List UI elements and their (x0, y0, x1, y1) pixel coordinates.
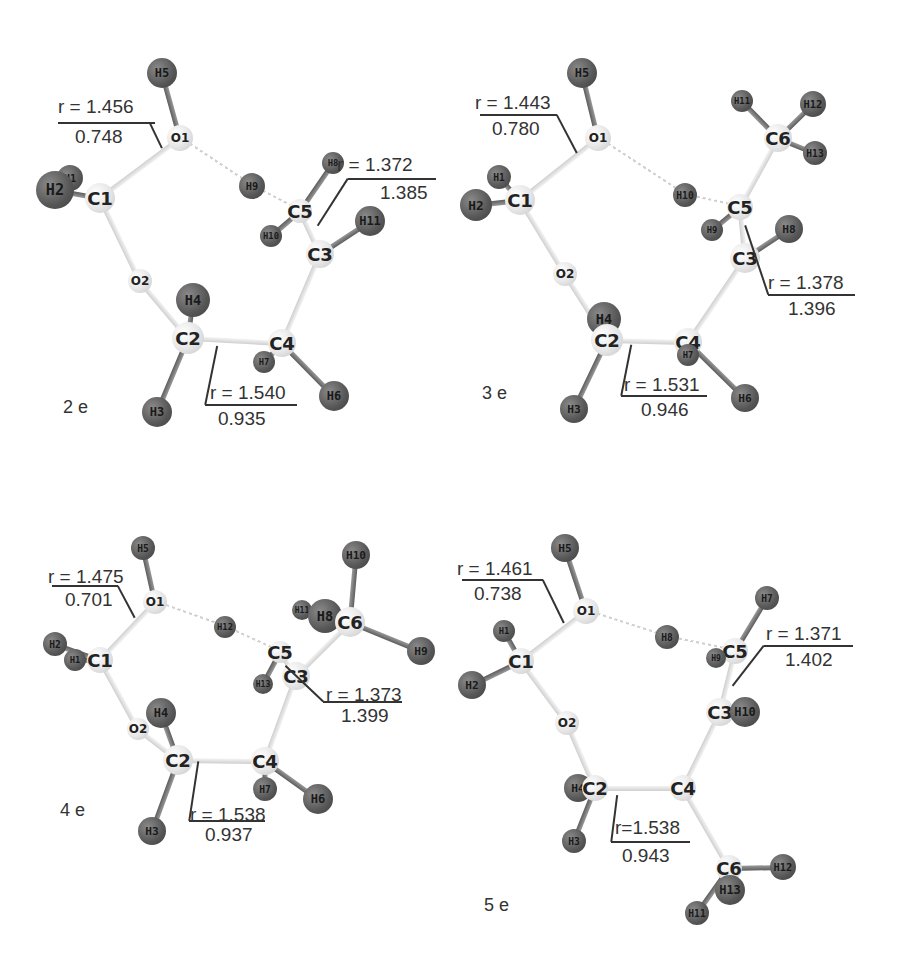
atom-c2: C2 (163, 745, 193, 775)
atom-h11: H11 (685, 901, 709, 925)
electron-state-label: 2 e (63, 397, 88, 418)
atom-h9: H9 (239, 173, 265, 199)
atom-h13: H13 (715, 875, 745, 905)
atom-label: C5 (727, 197, 753, 218)
atom-h9: H9 (407, 637, 435, 665)
atom-h10: H10 (673, 183, 697, 207)
atom-h12: H12 (770, 854, 796, 880)
atom-h12: H12 (800, 91, 826, 117)
bond-annotation: r = 1.443 (475, 93, 551, 112)
annotation-rule (480, 114, 557, 116)
bond-length-label: r = 1.371 (766, 624, 842, 643)
annotation-rule (768, 294, 855, 296)
bond-length-label: r = 1.475 (48, 567, 124, 586)
atom-label: H7 (259, 784, 271, 795)
annotation-rule (764, 645, 853, 647)
atom-label: H6 (327, 389, 341, 403)
figure-canvas: H5O1H1H2C1H9H8C5H10C3H11O2H4C2C4H7H3H6r … (0, 0, 898, 965)
electron-state-label: 4 e (60, 800, 85, 821)
atom-h7: H7 (253, 777, 277, 801)
atom-label: H4 (154, 706, 168, 720)
atom-h3: H3 (138, 817, 166, 845)
atom-h10: H10 (730, 697, 760, 727)
atom-c5: C5 (722, 638, 748, 664)
atom-label: H7 (259, 357, 270, 367)
atom-label: C1 (508, 651, 534, 672)
atom-c1: C1 (505, 185, 535, 215)
atom-h4: H4 (176, 283, 210, 317)
atom-label: O2 (558, 716, 577, 730)
atom-h7: H7 (755, 586, 779, 610)
atom-h9: H9 (701, 219, 723, 241)
atom-c4: C4 (670, 775, 696, 801)
atom-label: H3 (568, 836, 580, 847)
bond-length-label: r = 1.461 (457, 559, 533, 578)
atom-h7: H7 (677, 344, 699, 366)
atom-label: H11 (734, 96, 750, 106)
atom-label: H9 (414, 645, 427, 658)
annotation-rule (323, 701, 402, 703)
atom-c6: C6 (764, 124, 792, 152)
bond-order-value: 0.943 (622, 846, 670, 865)
atom-label: H4 (185, 292, 201, 308)
atom-o2: O2 (553, 262, 577, 286)
atom-c3: C3 (306, 240, 334, 268)
bond-annotation: r = 1.531 (624, 375, 700, 394)
atom-label: H10 (263, 231, 279, 241)
atom-label: C3 (707, 702, 733, 723)
atom-label: C4 (252, 751, 278, 772)
atom-h8: H8 (775, 215, 803, 243)
atom-label: H3 (567, 403, 580, 416)
annotation-rule (462, 579, 543, 581)
atom-c5: C5 (727, 194, 753, 220)
bond-annotation: r = 1.461 (457, 559, 533, 578)
atom-h1: H1 (493, 620, 515, 642)
atom-h9: H9 (706, 648, 726, 668)
bond-order-value: 0.738 (474, 584, 522, 603)
bond-order-value: 1.385 (380, 183, 428, 202)
atom-h12: H12 (214, 616, 236, 638)
atom-label: H12 (217, 622, 233, 632)
atom-h11: H11 (731, 90, 753, 112)
atom-h1: H1 (64, 649, 86, 671)
atom-label: H6 (738, 392, 751, 405)
atom-label: H11 (359, 214, 381, 228)
bond-length-label: r = 1.540 (210, 383, 286, 402)
atom-h11: H11 (355, 206, 385, 236)
atom-label: C6 (765, 128, 791, 149)
bond-length-label: r = 1.456 (58, 97, 134, 116)
atom-label: H12 (804, 98, 823, 110)
atom-label: H2 (46, 181, 64, 199)
atom-label: C5 (287, 201, 313, 222)
atom-o2: O2 (128, 269, 152, 293)
bond-annotation: r = 1.540 (210, 383, 286, 402)
bond-annotation: r = 1.456 (58, 97, 134, 116)
atom-c4: C4 (268, 329, 296, 357)
bond-length-label: r = 1.378 (768, 273, 844, 292)
annotation-leader-line (542, 579, 564, 623)
annotation-leader-line (556, 114, 577, 153)
atom-label: H8 (317, 608, 333, 624)
atom-label: H2 (468, 198, 483, 213)
bond-order-value: 1.396 (788, 299, 836, 318)
atom-label: C3 (307, 244, 333, 265)
atom-h1: H1 (487, 165, 511, 189)
atom-label: C2 (175, 328, 201, 349)
bond-annotation: r = 1.475 (48, 567, 124, 586)
annotation-rule (58, 122, 155, 124)
atom-label: H3 (145, 825, 158, 838)
bond-order-value: 0.780 (492, 119, 540, 138)
atom-h6: H6 (731, 384, 759, 412)
atom-c1: C1 (87, 647, 113, 673)
bond-annotation: r = 1.371 (766, 624, 842, 643)
atom-o1: O1 (143, 590, 167, 614)
atom-h3: H3 (142, 397, 172, 427)
hydrogen-bond-line (597, 136, 685, 195)
atom-label: H11 (295, 606, 309, 615)
atom-h2: H2 (460, 189, 492, 221)
atom-label: C2 (594, 330, 620, 351)
atom-o1: O1 (167, 125, 193, 151)
atom-h5: H5 (551, 534, 579, 562)
bond-annotation: r = 1.378 (768, 273, 844, 292)
atom-h5: H5 (131, 536, 155, 560)
